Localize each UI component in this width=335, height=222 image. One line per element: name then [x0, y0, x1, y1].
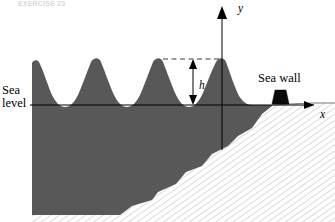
sea-wall-label: Sea wall	[258, 72, 301, 85]
y-axis-label: y	[238, 2, 243, 14]
sea-wall	[272, 90, 289, 104]
wave-height-label: h	[199, 79, 205, 91]
sea-level-label: Sea level	[2, 84, 26, 110]
x-axis-label: x	[320, 108, 325, 120]
wave-height-arrow	[189, 59, 197, 105]
sea-level-label-line2: level	[2, 97, 26, 110]
wave-sea-wall-figure: EXERCISE 23 Sea level Sea wall h y x	[0, 0, 335, 222]
figure-canvas	[0, 0, 335, 222]
exercise-caption: EXERCISE 23	[18, 0, 65, 7]
